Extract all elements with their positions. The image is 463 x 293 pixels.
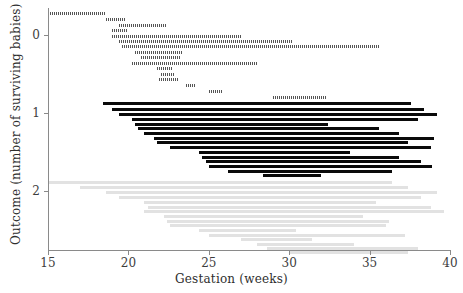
bar-outcome-0-12: [159, 78, 178, 81]
bar-outcome-1-4: [135, 123, 328, 126]
bar-outcome-1-13: [209, 165, 433, 168]
bar-outcome-0-15: [273, 96, 326, 99]
bar-outcome-2-11: [209, 234, 405, 237]
x-tick-label-15: 15: [40, 256, 55, 270]
bar-outcome-2-2: [106, 191, 437, 194]
y-tick-label-2: 2: [28, 184, 40, 198]
bar-outcome-1-10: [199, 151, 350, 154]
x-tick-15: [48, 250, 49, 255]
x-tick-20: [128, 250, 129, 255]
x-tick-25: [209, 250, 210, 255]
bar-outcome-0-8: [141, 56, 180, 59]
bar-outcome-0-6: [122, 45, 379, 48]
y-axis-line: [48, 8, 49, 251]
bar-outcome-0-4: [112, 35, 241, 38]
y-tick-0: [44, 35, 49, 36]
bar-outcome-0-3: [112, 29, 128, 32]
y-tick-label-1: 1: [28, 106, 40, 120]
x-tick-label-20: 20: [121, 256, 136, 270]
bar-outcome-2-12: [241, 238, 312, 241]
x-tick-label-25: 25: [201, 256, 216, 270]
bar-outcome-1-6: [144, 132, 398, 135]
bar-outcome-0-10: [157, 67, 173, 70]
bar-outcome-1-3: [132, 118, 418, 121]
bar-outcome-0-7: [135, 51, 183, 54]
bar-outcome-0-14: [209, 90, 222, 93]
bar-outcome-1-14: [228, 170, 392, 173]
bar-outcome-2-15: [289, 251, 408, 254]
x-tick-35: [370, 250, 371, 255]
x-tick-label-30: 30: [282, 256, 297, 270]
bar-outcome-2-9: [170, 224, 385, 227]
bar-outcome-1-12: [206, 160, 421, 163]
bar-outcome-0-13: [186, 84, 196, 87]
bar-outcome-1-2: [119, 113, 437, 116]
bar-outcome-2-1: [80, 186, 408, 189]
x-tick-30: [289, 250, 290, 255]
x-tick-40: [450, 250, 451, 255]
chart-figure: 152025303540012 Gestation (weeks) Outcom…: [0, 0, 463, 293]
bar-outcome-0-1: [106, 18, 125, 21]
x-tick-label-35: 35: [362, 256, 377, 270]
y-tick-2: [44, 191, 49, 192]
y-axis-title: Outcome (number of surviving babies): [9, 5, 23, 245]
bar-outcome-0-5: [119, 40, 293, 43]
bar-outcome-2-0: [48, 181, 392, 184]
bar-outcome-1-0: [103, 102, 412, 105]
bar-outcome-1-8: [157, 141, 408, 144]
bar-outcome-1-15: [263, 174, 321, 177]
bar-outcome-1-5: [138, 127, 379, 130]
bar-outcome-0-2: [119, 24, 167, 27]
x-axis-line: [48, 250, 451, 251]
bar-outcome-2-10: [199, 229, 295, 232]
x-axis-title: Gestation (weeks): [0, 272, 463, 286]
bar-outcome-2-3: [119, 196, 421, 199]
bar-outcome-1-9: [170, 146, 430, 149]
bar-outcome-2-8: [167, 220, 389, 223]
bar-outcome-1-11: [202, 156, 398, 159]
y-tick-1: [44, 113, 49, 114]
x-tick-label-40: 40: [442, 256, 457, 270]
bar-outcome-2-7: [164, 215, 363, 218]
bar-outcome-1-7: [154, 137, 434, 140]
bar-outcome-2-13: [257, 243, 353, 246]
bar-outcome-1-1: [112, 108, 424, 111]
y-tick-label-0: 0: [28, 28, 40, 42]
bar-outcome-0-11: [161, 73, 175, 76]
bar-outcome-0-0: [48, 12, 106, 15]
bar-outcome-0-9: [132, 62, 257, 65]
bar-outcome-2-6: [144, 210, 443, 213]
bar-outcome-2-4: [144, 201, 376, 204]
bar-outcome-2-5: [148, 206, 431, 209]
